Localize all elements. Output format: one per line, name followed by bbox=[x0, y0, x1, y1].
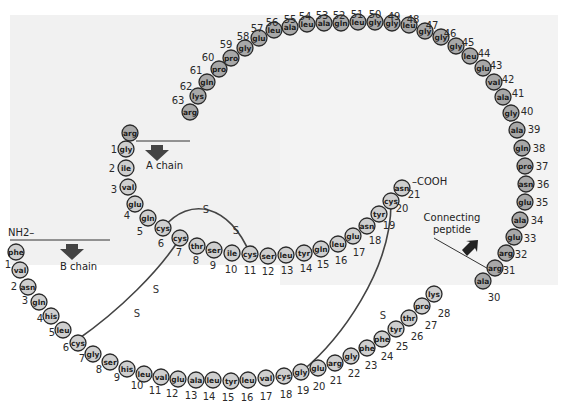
b-chain-residue: phe bbox=[359, 340, 375, 356]
residue-number: 39 bbox=[528, 124, 541, 135]
residue-number: 52 bbox=[333, 10, 346, 21]
residue-label: arg bbox=[499, 249, 513, 258]
residue-number: 48 bbox=[407, 14, 420, 25]
peptide-residue: gly bbox=[503, 105, 519, 121]
residue-label: ser bbox=[261, 252, 275, 261]
residue-number: 5 bbox=[137, 226, 143, 237]
residue-label: gly bbox=[505, 109, 518, 118]
residue-label: leu bbox=[138, 370, 151, 379]
a-chain-residue: ser bbox=[206, 242, 222, 258]
residue-number: 37 bbox=[536, 161, 549, 172]
residue-label: phe bbox=[8, 248, 24, 257]
peptide-residue: glu bbox=[506, 229, 522, 245]
residue-label: tyr bbox=[373, 210, 385, 219]
residue-label: tyr bbox=[225, 377, 237, 386]
peptide-residue: gln bbox=[514, 140, 530, 156]
residue-label: leu bbox=[242, 376, 255, 385]
residue-number: 61 bbox=[190, 65, 203, 76]
residue-number: 26 bbox=[411, 331, 424, 342]
b-chain-residue: his bbox=[119, 361, 135, 377]
residue-number: 18 bbox=[369, 235, 382, 246]
residue-number: 28 bbox=[438, 308, 451, 319]
residue-label: thr bbox=[403, 314, 416, 323]
peptide-residue: asn bbox=[518, 176, 534, 192]
residue-number: 56 bbox=[266, 17, 279, 28]
residue-number: 46 bbox=[444, 28, 457, 39]
residue-label: gln bbox=[32, 298, 45, 307]
residue-label: val bbox=[488, 78, 501, 87]
b-chain-residue: glu bbox=[310, 360, 326, 376]
residue-label: glu bbox=[518, 198, 531, 207]
residue-number: 1 bbox=[5, 259, 11, 270]
residue-number: 35 bbox=[536, 197, 549, 208]
sequence-svg: S S S S S A chain B chain Connecting pep… bbox=[0, 0, 572, 408]
residue-number: 21 bbox=[330, 375, 343, 386]
residue-number: 17 bbox=[353, 247, 366, 258]
b-chain-residue: asn bbox=[20, 279, 36, 295]
b-chain-residue: leu bbox=[240, 372, 256, 388]
residue-number: 11 bbox=[149, 385, 162, 396]
peptide-residue: arg bbox=[487, 260, 503, 276]
residue-label: leu bbox=[57, 326, 70, 335]
residue-number: 13 bbox=[281, 265, 294, 276]
residue-layer: phe1valasn2gln3his4leu5cys6gly7ser8his9l… bbox=[5, 9, 550, 403]
peptide-residue: ala bbox=[512, 212, 528, 228]
residue-label: ser bbox=[207, 246, 221, 255]
a-chain-residue: cys bbox=[242, 246, 258, 262]
a-chain-residue: cys bbox=[172, 230, 188, 246]
residue-number: 58 bbox=[237, 31, 250, 42]
peptide-residue: val bbox=[486, 74, 502, 90]
residue-number: 1 bbox=[111, 144, 117, 155]
residue-number: 4 bbox=[37, 313, 43, 324]
residue-label: his bbox=[121, 365, 134, 374]
connecting-label: Connecting bbox=[424, 212, 481, 223]
residue-label: arg bbox=[123, 129, 137, 138]
cooh-terminus-label: –COOH bbox=[412, 176, 447, 187]
residue-label: tyr bbox=[390, 325, 402, 334]
b-chain-residue: cys bbox=[70, 335, 86, 351]
b-chain-residue: val bbox=[258, 370, 274, 386]
b-chain-residue: tyr bbox=[223, 373, 239, 389]
residue-label: gly bbox=[450, 42, 463, 51]
a-chain-residue: leu bbox=[278, 247, 294, 263]
residue-number: 21 bbox=[408, 189, 421, 200]
b-chain-residue: his bbox=[43, 308, 59, 324]
a-chain-residue: leu bbox=[330, 236, 346, 252]
residue-label: glu bbox=[311, 364, 324, 373]
residue-number: 15 bbox=[317, 259, 330, 270]
residue-label: val bbox=[155, 373, 168, 382]
residue-number: 9 bbox=[210, 260, 216, 271]
residue-label: glu bbox=[507, 233, 520, 242]
a-chain-residue: thr bbox=[189, 238, 205, 254]
sulfur-label: S bbox=[153, 284, 159, 295]
residue-number: 18 bbox=[280, 389, 293, 400]
residue-number: 44 bbox=[478, 48, 491, 59]
residue-label: phe bbox=[359, 344, 375, 353]
residue-number: 12 bbox=[262, 266, 275, 277]
b-chain-residue: val bbox=[12, 262, 28, 278]
residue-label: gly bbox=[120, 145, 133, 154]
residue-number: 31 bbox=[503, 265, 516, 276]
residue-label: gly bbox=[239, 44, 252, 53]
residue-number: 22 bbox=[348, 368, 361, 379]
residue-number: 3 bbox=[22, 295, 28, 306]
residue-label: val bbox=[122, 183, 135, 192]
residue-label: pro bbox=[224, 54, 238, 63]
residue-label: cys bbox=[71, 339, 85, 348]
residue-number: 2 bbox=[109, 163, 115, 174]
residue-number: 7 bbox=[176, 247, 182, 258]
residue-number: 20 bbox=[313, 381, 326, 392]
residue-number: 38 bbox=[533, 143, 546, 154]
peptide-residue: arg bbox=[182, 104, 198, 120]
residue-number: 13 bbox=[185, 390, 198, 401]
residue-label: leu bbox=[332, 240, 345, 249]
residue-label: asn bbox=[21, 283, 36, 292]
b-chain-residue: gly bbox=[293, 364, 309, 380]
residue-label: his bbox=[45, 312, 58, 321]
residue-label: arg bbox=[328, 359, 342, 368]
residue-label: ala bbox=[511, 126, 524, 135]
a-chain-residue: tyr bbox=[296, 245, 312, 261]
residue-number: 32 bbox=[515, 249, 528, 260]
b-chain-residue: pro bbox=[414, 298, 430, 314]
residue-number: 63 bbox=[172, 95, 185, 106]
